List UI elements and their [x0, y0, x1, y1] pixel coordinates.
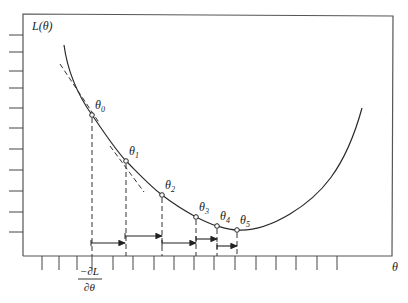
- y-axis-label: L(θ): [31, 19, 53, 33]
- gradient-numerator: −∂L: [80, 265, 99, 277]
- theta-points: θ0θ1θ2θ3θ4θ5: [90, 98, 250, 232]
- loss-curve: [64, 45, 362, 230]
- theta-label: θ3: [199, 200, 209, 216]
- theta-point-marker: [160, 193, 165, 198]
- gradient-descent-diagram: θ0θ1θ2θ3θ4θ5 L(θ) θ −∂L ∂θ: [0, 0, 408, 303]
- step-arrows: [91, 233, 237, 249]
- theta-point-marker: [215, 224, 220, 229]
- diagram-canvas: θ0θ1θ2θ3θ4θ5 L(θ) θ −∂L ∂θ: [0, 0, 408, 303]
- plot-frame: [23, 14, 393, 256]
- theta-point-marker: [194, 215, 199, 220]
- theta-point-marker: [90, 113, 95, 118]
- theta-point-marker: [124, 159, 129, 164]
- theta-label: θ2: [165, 178, 175, 194]
- y-axis-ticks: [9, 35, 23, 232]
- theta-point-marker: [235, 228, 240, 233]
- gradient-denominator: ∂θ: [84, 281, 95, 293]
- theta-label: θ4: [220, 209, 230, 225]
- theta-label: θ0: [95, 98, 105, 114]
- theta-label: θ1: [129, 144, 139, 160]
- theta-label: θ5: [240, 213, 250, 229]
- x-axis-label: θ: [392, 260, 398, 274]
